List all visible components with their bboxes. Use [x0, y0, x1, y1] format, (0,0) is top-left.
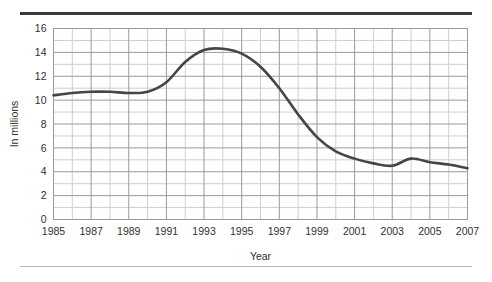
y-tick-label: 14	[35, 46, 47, 58]
x-tick-label: 1997	[268, 225, 292, 237]
x-axis-title: Year	[250, 250, 272, 262]
line-chart-plot: 0246810121416 19851987198919911993199519…	[0, 0, 492, 282]
x-axis-tick-labels: 1985198719891991199319951997199920012003…	[42, 225, 480, 237]
y-tick-label: 2	[41, 189, 47, 201]
x-tick-label: 2007	[456, 225, 480, 237]
x-tick-label: 2005	[418, 225, 442, 237]
x-tick-label: 1989	[117, 225, 141, 237]
y-tick-label: 4	[41, 165, 47, 177]
y-tick-label: 12	[35, 70, 47, 82]
y-axis-title: In millions	[8, 101, 20, 148]
x-tick-label: 1999	[305, 225, 329, 237]
y-tick-label: 16	[35, 22, 47, 34]
y-tick-label: 6	[41, 142, 47, 154]
y-tick-label: 0	[41, 213, 47, 225]
chart-figure: 0246810121416 19851987198919911993199519…	[0, 0, 492, 282]
x-tick-label: 2001	[343, 225, 367, 237]
x-tick-label: 1991	[155, 225, 179, 237]
y-axis-tick-labels: 0246810121416	[35, 22, 47, 225]
bottom-divider-rule	[20, 266, 472, 267]
x-tick-label: 1987	[79, 225, 103, 237]
x-tick-label: 1995	[230, 225, 254, 237]
x-tick-label: 2003	[381, 225, 405, 237]
y-tick-label: 10	[35, 94, 47, 106]
x-tick-label: 1993	[192, 225, 216, 237]
y-tick-label: 8	[41, 118, 47, 130]
x-tick-label: 1985	[42, 225, 66, 237]
